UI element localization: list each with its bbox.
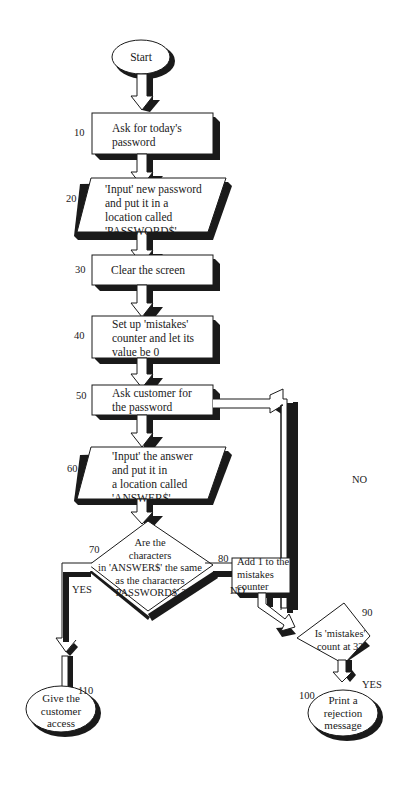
step-30-text: Clear the screen — [111, 263, 185, 277]
step-40-text: Set up 'mistakes' counter and let its va… — [112, 317, 194, 359]
step-70-text: Are the characters in 'ANSWER$' the same… — [92, 537, 208, 600]
step-90-text: Is 'mistakes' count at 3? — [300, 628, 380, 653]
step-number-80: 80 — [218, 553, 229, 564]
step-number-20: 20 — [66, 193, 77, 204]
step-number-40: 40 — [74, 330, 85, 341]
yes-label-70: YES — [72, 584, 92, 595]
yes-label-90: YES — [362, 679, 382, 690]
step-50-text: Ask customer for the password — [112, 386, 192, 414]
arrow-50-to-60 — [131, 415, 163, 451]
step-20-text: 'Input' new password and put it in a loc… — [105, 182, 202, 238]
start-label: Start — [112, 50, 170, 64]
step-number-30: 30 — [75, 264, 86, 275]
arrow-90-to-100 — [333, 660, 356, 682]
yes-path-70-to-110 — [56, 563, 92, 694]
no-label-90: NO — [352, 474, 367, 485]
step-110-text: Give the customer access — [32, 692, 90, 730]
step-100-text: Print a rejection message — [314, 694, 372, 732]
step-number-90: 90 — [362, 607, 373, 618]
step-number-10: 10 — [74, 127, 85, 138]
flowchart-canvas — [0, 0, 419, 790]
arrow-start-to-10 — [131, 74, 160, 112]
step-number-60: 60 — [67, 463, 78, 474]
step-60-text: 'Input' the answer and put it in a locat… — [112, 449, 193, 505]
step-number-50: 50 — [76, 390, 87, 401]
step-10-text: Ask for today's password — [112, 121, 182, 149]
step-80-text: Add 1 to the mistakes counter — [237, 556, 289, 594]
step-number-100: 100 — [299, 690, 315, 701]
